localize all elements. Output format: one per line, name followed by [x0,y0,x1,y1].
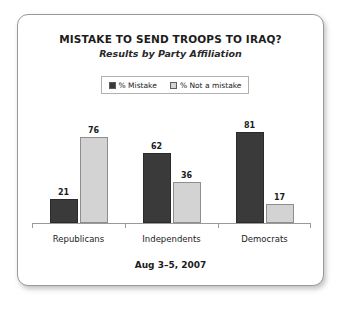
legend-swatch-mistake-icon [109,82,116,89]
category-label-democrats: Democrats [218,234,311,244]
category-label-republicans: Republicans [32,234,125,244]
bar-value-democrats-mistake: 81 [244,122,255,130]
category-label-independents: Independents [125,234,218,244]
legend-label-mistake: % Mistake [119,81,157,90]
bar-democrats-not-a-mistake: 17 [266,110,294,223]
bar-value-independents-not-a-mistake: 36 [181,172,192,180]
bar-value-independents-mistake: 62 [151,143,162,151]
bar-group-democrats: 81 17 [218,110,311,223]
axis-tick-start [32,223,33,228]
bar-value-republicans-mistake: 21 [58,189,69,197]
axis-tick-end [310,223,311,228]
chart-card: MISTAKE TO SEND TROOPS TO IRAQ? Results … [17,14,324,286]
bar-rect-democrats-mistake [236,132,264,223]
x-axis [32,223,311,229]
chart-legend: % Mistake % Not a mistake [101,76,249,94]
bar-value-republicans-not-a-mistake: 76 [88,127,99,135]
chart-title: MISTAKE TO SEND TROOPS TO IRAQ? [18,33,323,45]
bar-independents-mistake: 62 [143,110,171,223]
legend-label-not-a-mistake: % Not a mistake [180,81,242,90]
bar-group-independents: 62 36 [125,110,218,223]
legend-item-not-a-mistake: % Not a mistake [170,81,242,90]
chart-subtitle: Results by Party Affiliation [18,48,323,59]
axis-tick-2 [218,223,219,228]
bar-republicans-mistake: 21 [50,110,78,223]
plot-area: 21 76 62 36 81 17 [32,110,311,223]
bar-rect-independents-mistake [143,153,171,223]
category-labels: Republicans Independents Democrats [32,234,311,248]
legend-swatch-not-a-mistake-icon [170,82,177,89]
bar-rect-democrats-not-a-mistake [266,204,294,223]
bar-rect-republicans-mistake [50,199,78,223]
bar-republicans-not-a-mistake: 76 [80,110,108,223]
axis-tick-1 [125,223,126,228]
axis-baseline [32,223,311,224]
chart-footer-date: Aug 3–5, 2007 [18,260,323,270]
bar-independents-not-a-mistake: 36 [173,110,201,223]
bar-value-democrats-not-a-mistake: 17 [274,194,285,202]
legend-item-mistake: % Mistake [109,81,157,90]
bar-rect-republicans-not-a-mistake [80,137,108,223]
bar-democrats-mistake: 81 [236,110,264,223]
bar-group-republicans: 21 76 [32,110,125,223]
bar-rect-independents-not-a-mistake [173,182,201,223]
